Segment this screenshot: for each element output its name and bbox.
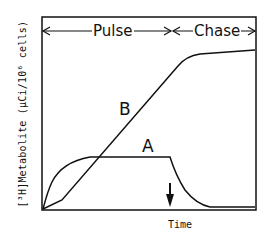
curve-b: [43, 50, 255, 209]
curve-a: [43, 157, 255, 209]
chase-label: Chase: [193, 21, 241, 41]
y-axis-label: [³H]Metabolite (µCi/10⁶ cells): [17, 33, 31, 208]
x-axis-label: Time: [150, 219, 210, 230]
plot-frame: [42, 17, 256, 210]
chase-start-arrow-icon: [166, 183, 174, 207]
curve-a-label: A: [142, 136, 154, 156]
pulse-chase-chart: Pulse Chase B A [³H]Metabolite (µCi/10⁶ …: [0, 0, 269, 242]
pulse-label: Pulse: [92, 21, 134, 41]
curve-b-label: B: [119, 99, 131, 119]
